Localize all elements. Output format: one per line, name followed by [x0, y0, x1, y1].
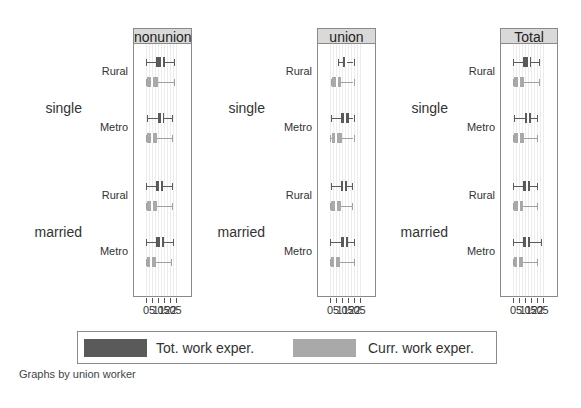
- whisker-cap-tot: [539, 59, 540, 66]
- legend-swatch-tot: [84, 339, 147, 357]
- median-curr: [335, 133, 337, 143]
- median-curr: [518, 133, 520, 143]
- whisker-cap-tot: [330, 239, 331, 246]
- whisker-cap-tot: [514, 115, 515, 122]
- x-tick-label: 25: [170, 304, 180, 316]
- x-tick: [360, 298, 361, 303]
- whisker-cap-tot: [146, 239, 147, 246]
- median-curr: [150, 257, 152, 267]
- panel-header-total: Total: [500, 28, 558, 44]
- whisker-cap-tot: [354, 115, 355, 122]
- median-tot: [343, 181, 345, 191]
- median-tot: [161, 113, 163, 123]
- whisker-cap-curr: [539, 79, 540, 86]
- median-tot: [527, 113, 529, 123]
- median-curr: [334, 257, 336, 267]
- whisker-cap-tot: [331, 183, 332, 190]
- graph-note: Graphs by union worker: [19, 368, 136, 380]
- x-tick: [513, 298, 514, 303]
- x-tick: [348, 298, 349, 303]
- x-tick-label: 0: [510, 304, 515, 316]
- whisker-cap-tot: [513, 183, 514, 190]
- x-tick: [543, 298, 544, 303]
- x-tick: [330, 298, 331, 303]
- legend-swatch-curr: [293, 339, 356, 357]
- whisker-cap-tot: [174, 59, 175, 66]
- median-curr: [151, 133, 153, 143]
- gridline: [357, 44, 358, 296]
- x-tick-label: 25: [537, 304, 547, 316]
- row-group-label-married: married: [401, 224, 448, 240]
- median-tot: [160, 237, 162, 247]
- legend-label-tot: Tot. work exper.: [156, 340, 254, 356]
- x-tick: [336, 298, 337, 303]
- median-tot: [526, 237, 528, 247]
- row-sub-label-metro: Metro: [284, 245, 312, 257]
- gridline: [543, 44, 544, 296]
- x-tick: [519, 298, 520, 303]
- x-tick: [158, 298, 159, 303]
- median-curr: [518, 77, 520, 87]
- median-curr: [517, 257, 519, 267]
- median-tot: [345, 57, 347, 67]
- whisker-cap-tot: [354, 59, 355, 66]
- whisker-cap-tot: [172, 115, 173, 122]
- whisker-cap-tot: [354, 239, 355, 246]
- whisker-cap-tot: [352, 183, 353, 190]
- row-sub-label-rural: Rural: [286, 65, 312, 77]
- median-tot: [528, 57, 530, 67]
- x-tick: [176, 298, 177, 303]
- x-tick: [525, 298, 526, 303]
- whisker-cap-curr: [352, 203, 353, 210]
- median-curr: [151, 77, 153, 87]
- whisker-cap-curr: [537, 203, 538, 210]
- median-curr: [518, 201, 520, 211]
- median-curr: [335, 201, 337, 211]
- x-tick-label: 0: [143, 304, 148, 316]
- whisker-cap-curr: [537, 259, 538, 266]
- whisker-cap-curr: [537, 135, 538, 142]
- row-sub-label-rural: Rural: [102, 65, 128, 77]
- median-tot: [344, 237, 346, 247]
- box-curr: [147, 77, 158, 87]
- row-group-label-single: single: [45, 100, 82, 116]
- x-tick: [537, 298, 538, 303]
- row-group-label-single: single: [411, 100, 448, 116]
- x-tick: [342, 298, 343, 303]
- whisker-cap-tot: [338, 59, 339, 66]
- whisker-cap-curr: [354, 135, 355, 142]
- row-sub-label-metro: Metro: [100, 245, 128, 257]
- row-group-label-single: single: [228, 100, 265, 116]
- row-sub-label-metro: Metro: [467, 245, 495, 257]
- x-tick-label: 25: [354, 304, 364, 316]
- row-sub-label-rural: Rural: [469, 65, 495, 77]
- whisker-cap-tot: [541, 239, 542, 246]
- gridline: [360, 44, 361, 296]
- whisker-cap-tot: [513, 239, 514, 246]
- x-tick: [354, 298, 355, 303]
- row-sub-label-metro: Metro: [100, 121, 128, 133]
- row-group-label-married: married: [218, 224, 265, 240]
- row-group-label-married: married: [35, 224, 82, 240]
- whisker-cap-tot: [537, 115, 538, 122]
- row-sub-label-rural: Rural: [469, 189, 495, 201]
- row-sub-label-metro: Metro: [284, 121, 312, 133]
- row-sub-label-rural: Rural: [102, 189, 128, 201]
- panel-header-union: union: [317, 28, 376, 44]
- whisker-cap-curr: [171, 259, 172, 266]
- x-tick: [170, 298, 171, 303]
- whisker-cap-tot: [146, 183, 147, 190]
- legend: Tot. work exper. Curr. work exper.: [77, 331, 497, 364]
- whisker-cap-curr: [354, 259, 355, 266]
- median-tot: [159, 181, 161, 191]
- whisker-cap-curr: [172, 135, 173, 142]
- gridline: [176, 44, 177, 296]
- x-tick: [152, 298, 153, 303]
- whisker-cap-tot: [147, 115, 148, 122]
- legend-label-curr: Curr. work exper.: [368, 340, 474, 356]
- whisker-cap-tot: [331, 115, 332, 122]
- whisker-cap-curr: [354, 79, 355, 86]
- whisker-cap-tot: [172, 183, 173, 190]
- whisker-cap-tot: [173, 239, 174, 246]
- median-tot: [344, 113, 346, 123]
